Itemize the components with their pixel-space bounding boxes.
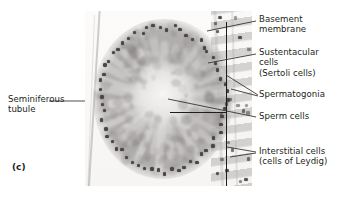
cell-cluster xyxy=(124,76,132,83)
leydig-cell-nucleus xyxy=(244,178,247,181)
spermatogonium-nucleus xyxy=(200,152,203,155)
cell-cluster xyxy=(140,59,146,64)
cell-cluster xyxy=(171,53,182,63)
spermatogonium-nucleus xyxy=(184,34,187,37)
spermatogonium-nucleus xyxy=(157,168,160,171)
leydig-cell-nucleus xyxy=(234,16,237,19)
cell-cluster xyxy=(207,132,212,136)
leydig-cell-nucleus xyxy=(231,148,234,151)
leydig-cell-nucleus xyxy=(242,109,245,112)
spermatogonium-nucleus xyxy=(99,78,102,81)
cell-cluster xyxy=(108,82,112,87)
cell-cluster xyxy=(125,115,132,124)
bracket-horizontal-line xyxy=(170,112,227,113)
label-sperm-cells: Sperm cells xyxy=(259,111,309,121)
spermatogonium-nucleus xyxy=(102,73,105,76)
cell-cluster xyxy=(193,41,199,47)
spermatogonium-nucleus xyxy=(204,149,207,152)
cell-cluster xyxy=(151,36,156,39)
spermatogonium-nucleus xyxy=(178,28,181,31)
cell-cluster xyxy=(143,141,148,148)
spermatogonium-nucleus xyxy=(212,56,215,59)
cell-cluster xyxy=(178,99,188,109)
cell-cluster xyxy=(140,79,146,85)
cell-cluster xyxy=(123,93,132,103)
cell-cluster xyxy=(194,84,199,88)
cell-cluster xyxy=(137,37,146,48)
spermatogonium-nucleus xyxy=(219,123,222,126)
spermatogonium-nucleus xyxy=(115,147,118,150)
figure-root: Basement membrane Sustentacular cells (S… xyxy=(0,0,349,204)
spermatogonium-nucleus xyxy=(103,109,106,112)
cell-cluster xyxy=(205,90,211,97)
label-basement-membrane: Basement membrane xyxy=(259,14,306,35)
spermatogonium-nucleus xyxy=(165,28,168,31)
spermatogonium-nucleus xyxy=(120,148,123,151)
cell-cluster xyxy=(186,66,190,70)
cell-cluster xyxy=(171,30,177,36)
cell-cluster xyxy=(145,111,154,117)
cell-cluster xyxy=(175,68,183,76)
cell-cluster xyxy=(127,44,136,54)
spermatogonium-nucleus xyxy=(103,63,106,66)
spermatogonium-nucleus xyxy=(211,144,214,147)
spermatogonium-nucleus xyxy=(177,169,180,172)
leydig-cell-nucleus xyxy=(219,16,222,19)
spermatogonium-nucleus xyxy=(105,135,108,138)
cell-cluster xyxy=(201,52,210,59)
panel-letter: (c) xyxy=(12,162,26,172)
cell-cluster xyxy=(178,84,187,93)
cell-cluster xyxy=(187,133,191,136)
cell-cluster xyxy=(195,69,205,82)
spermatogonium-nucleus xyxy=(104,127,107,130)
cell-cluster xyxy=(172,155,178,161)
label-seminiferous-tubule: Seminiferous tubule xyxy=(8,94,86,115)
cell-cluster xyxy=(154,116,161,124)
label-spermatogonia: Spermatogonia xyxy=(259,89,325,99)
spermatogonium-nucleus xyxy=(182,166,185,169)
cell-cluster xyxy=(150,56,159,63)
cell-cluster xyxy=(202,109,212,121)
leydig-cell-nucleus xyxy=(247,48,250,51)
spermatogonium-nucleus xyxy=(151,24,154,27)
leydig-cell-nucleus xyxy=(236,104,239,107)
cell-cluster xyxy=(112,130,117,136)
spermatogonium-nucleus xyxy=(170,167,173,170)
spermatogonium-nucleus xyxy=(121,41,124,44)
cell-cluster xyxy=(174,134,180,140)
cell-cluster xyxy=(204,68,212,78)
micrograph-image xyxy=(85,11,252,186)
spermatogonium-nucleus xyxy=(99,88,102,91)
spermatogonium-nucleus xyxy=(200,38,203,41)
leydig-cell-nucleus xyxy=(247,157,250,160)
cell-cluster xyxy=(172,148,177,152)
label-interstitial-cells: Interstitial cells (cells of Leydig) xyxy=(259,146,327,167)
spermatogonium-nucleus xyxy=(133,31,136,34)
cell-cluster xyxy=(184,93,188,97)
cell-cluster xyxy=(169,116,176,125)
cell-cluster xyxy=(132,140,138,146)
spermatogonium-nucleus xyxy=(195,161,198,164)
leydig-cell-nucleus xyxy=(227,141,230,144)
leydig-cell-nucleus xyxy=(238,36,241,39)
label-sustentacular-cells: Sustentacular cells (Sertoli cells) xyxy=(259,47,319,78)
leydig-cell-nucleus xyxy=(229,98,232,101)
leydig-cell-nucleus xyxy=(246,111,249,114)
spermatogonium-nucleus xyxy=(100,95,103,98)
spermatogonium-nucleus xyxy=(150,167,153,170)
spermatogonium-nucleus xyxy=(163,172,166,175)
spermatogonium-nucleus xyxy=(116,48,119,51)
cell-cluster xyxy=(146,149,150,152)
cell-cluster xyxy=(139,133,146,140)
cell-cluster xyxy=(151,74,156,80)
bracket-vertical-line xyxy=(226,22,227,186)
cell-cluster xyxy=(118,56,123,61)
cell-cluster xyxy=(188,145,195,152)
